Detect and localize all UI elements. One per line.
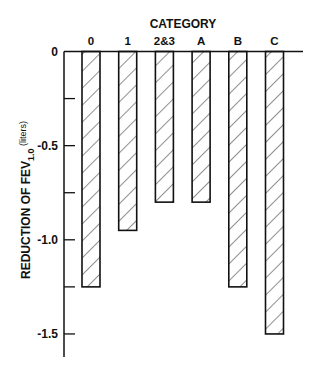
category-label: 1	[124, 35, 131, 47]
bar-2&3	[155, 52, 173, 203]
category-label: B	[234, 35, 242, 47]
y-tick-label: -1.0	[37, 233, 58, 247]
bars	[82, 52, 284, 334]
y-tick-label: -0.5	[37, 139, 58, 153]
y-tick-labels: 0-0.5-1.0-1.5	[37, 45, 58, 341]
bar-chart: CATEGORY 012&3ABC 0-0.5-1.0-1.5 REDUCTIO…	[0, 0, 315, 369]
bar-C	[266, 52, 284, 334]
y-tick-label: 0	[51, 45, 58, 59]
y-axis-title: REDUCTION OF FEV1.0 (liters)	[18, 121, 36, 279]
category-label: 2&3	[154, 35, 175, 47]
bar-1	[119, 52, 137, 231]
category-label: A	[197, 35, 205, 47]
y-tick-label: -1.5	[37, 327, 58, 341]
category-labels: 012&3ABC	[88, 35, 279, 47]
bar-B	[229, 52, 247, 287]
x-axis-title: CATEGORY	[150, 17, 217, 31]
bar-0	[82, 52, 100, 287]
category-label: C	[270, 35, 278, 47]
bar-A	[192, 52, 210, 203]
category-label: 0	[88, 35, 94, 47]
